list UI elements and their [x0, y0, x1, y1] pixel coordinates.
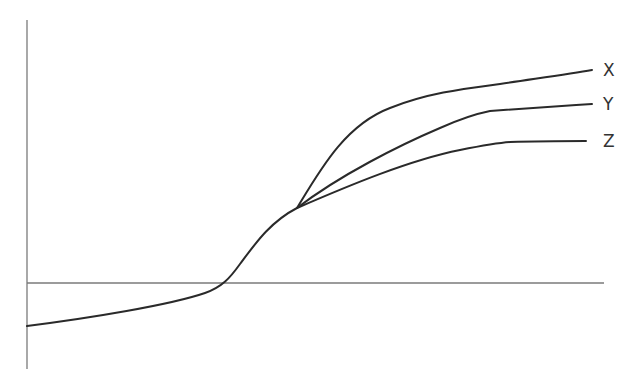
diagram-canvas	[0, 0, 630, 386]
curve-label-y: Y	[603, 96, 613, 113]
curve-z	[297, 141, 586, 208]
curve-label-z: Z	[603, 133, 615, 150]
curve-label-x: X	[603, 62, 615, 79]
curve-y	[297, 104, 592, 208]
shared-curve-trunk	[27, 208, 297, 326]
curve-x	[297, 70, 592, 208]
